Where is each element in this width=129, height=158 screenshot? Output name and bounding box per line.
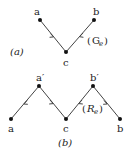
node-b <box>118 117 122 121</box>
svg-text:): ) <box>99 103 103 114</box>
node-b <box>92 18 96 22</box>
svg-text:(: ( <box>82 103 86 114</box>
svg-text:e: e <box>99 40 103 48</box>
node-c <box>64 117 68 121</box>
node-c <box>64 50 68 54</box>
node-label-b-prime: b′ <box>90 72 99 83</box>
caption-a: (a) <box>10 46 24 57</box>
node-label-b: b <box>93 6 99 17</box>
diagram-canvas: a b c (a) ( G e ) a′ b′ a c b ( <box>0 0 129 158</box>
node-label-a-prime: a′ <box>36 72 45 83</box>
node-label-a: a <box>34 6 40 17</box>
node-label-c: c <box>63 123 69 134</box>
node-label-c: c <box>63 57 69 68</box>
graph-label-r-e: ( R e ) <box>82 103 103 116</box>
svg-text:e: e <box>94 108 98 116</box>
node-a-prime <box>37 84 41 88</box>
svg-text:): ) <box>104 35 108 46</box>
node-label-a: a <box>8 123 14 134</box>
node-b-prime <box>91 84 95 88</box>
svg-text:(: ( <box>87 35 91 46</box>
node-a <box>38 18 42 22</box>
diagram-b: a′ b′ a c b ( R e ) (b) <box>8 72 123 148</box>
graph-label-g-e: ( G e ) <box>87 35 108 48</box>
diagram-a: a b c (a) ( G e ) <box>10 6 108 68</box>
node-a <box>9 117 13 121</box>
caption-b: (b) <box>58 137 72 148</box>
node-label-b: b <box>117 123 123 134</box>
